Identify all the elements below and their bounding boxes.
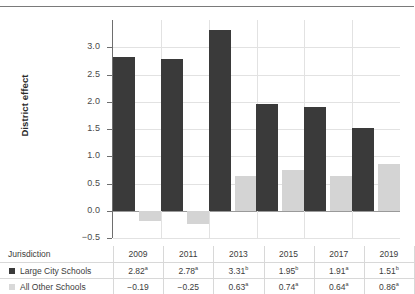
y-axis-tick-label: 1.5 [60, 123, 100, 133]
bar [161, 59, 183, 211]
table-column-header: 2009 [113, 246, 163, 262]
table-row: Large City Schools 2.82a2.78a3.31b1.95b1… [0, 262, 414, 278]
bar [282, 170, 304, 210]
table-cell: 2.82a [113, 263, 163, 279]
y-axis-tick-label: −0.5 [60, 232, 100, 242]
plot-area [113, 20, 400, 238]
y-axis-tick [107, 211, 112, 212]
data-table: Jurisdiction 200920112013201520172019 La… [0, 246, 414, 294]
table-cell: −0.25 [163, 279, 213, 294]
bar-chart: District effect 3.02.52.01.51.00.50.0−0.… [0, 12, 414, 246]
table-cell: 1.51b [364, 263, 414, 279]
table-cell: 1.95b [264, 263, 314, 279]
table-column-separator [314, 246, 315, 294]
y-axis-tick-label: 1.0 [60, 150, 100, 160]
table-column-header: 2013 [213, 246, 263, 262]
table-cell: 0.64a [314, 279, 364, 294]
table-row-header-label: Jurisdiction [8, 246, 51, 262]
table-column-separator [113, 246, 114, 294]
gridline [113, 238, 400, 239]
y-axis-tick-label: 0.0 [60, 205, 100, 215]
legend-swatch-all-other-schools [9, 284, 15, 290]
y-axis-tick-label: 2.0 [60, 96, 100, 106]
y-axis-tick [107, 156, 112, 157]
bar [187, 211, 209, 225]
y-axis-tick [107, 75, 112, 76]
bar [378, 164, 400, 211]
bar [139, 211, 161, 221]
y-axis-tick-label: 3.0 [60, 41, 100, 51]
table-row: All Other Schools −0.19−0.250.63a0.74a0.… [0, 278, 414, 294]
table-cell: 0.86a [364, 279, 414, 294]
bar [256, 104, 278, 210]
table-column-separator [264, 246, 265, 294]
bar [352, 128, 374, 210]
bar [209, 30, 231, 210]
bar [235, 176, 257, 210]
legend-swatch-large-city-schools [9, 268, 15, 274]
y-axis-tick-label: 2.5 [60, 69, 100, 79]
y-axis-tick [107, 129, 112, 130]
table-cell: 3.31b [213, 263, 263, 279]
table-column-separator [163, 246, 164, 294]
table-cell: −0.19 [113, 279, 163, 294]
table-column-header: 2011 [163, 246, 213, 262]
table-cell: 0.63a [213, 279, 263, 294]
table-row-label: All Other Schools [20, 279, 86, 294]
bar [304, 107, 326, 211]
table-column-header: 2015 [264, 246, 314, 262]
table-row-label: Large City Schools [20, 263, 91, 279]
bar [330, 176, 352, 211]
table-cell: 0.74a [264, 279, 314, 294]
table-cell: 1.91a [314, 263, 364, 279]
bar [113, 57, 135, 211]
y-axis-tick [107, 47, 112, 48]
y-axis-tick [107, 184, 112, 185]
table-header-row: Jurisdiction 200920112013201520172019 [0, 246, 414, 262]
table-column-header: 2017 [314, 246, 364, 262]
table-column-header: 2019 [364, 246, 414, 262]
y-axis-tick-label: 0.5 [60, 178, 100, 188]
table-cell: 2.78a [163, 263, 213, 279]
top-divider-rule [0, 6, 414, 7]
y-axis-title: District effect [19, 46, 30, 166]
table-column-separator [364, 246, 365, 294]
y-axis-tick [107, 102, 112, 103]
y-axis-tick [107, 238, 112, 239]
table-column-separator [213, 246, 214, 294]
